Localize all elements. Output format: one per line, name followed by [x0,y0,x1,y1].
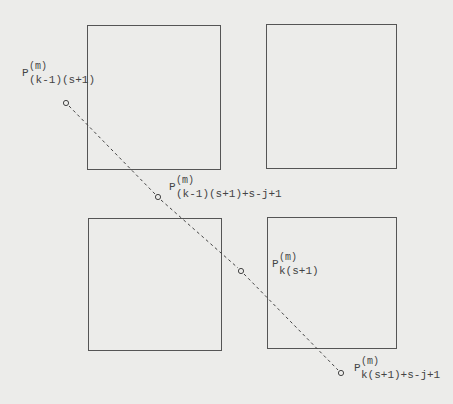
point-marker [338,370,343,375]
point-marker [63,100,68,105]
diagonal-connector [0,0,453,404]
point-marker [155,194,160,199]
point-marker [238,268,243,273]
